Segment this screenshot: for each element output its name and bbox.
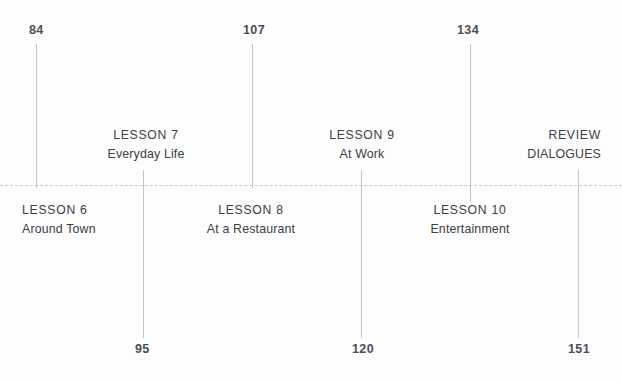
timeline-entry-lesson-7[interactable]: LESSON 7Everyday Life — [107, 126, 184, 164]
timeline-tick-151 — [578, 170, 579, 338]
entry-title-lesson-8: LESSON 8 — [207, 201, 295, 220]
entry-title-lesson-9: LESSON 9 — [329, 126, 395, 145]
page-number-95: 95 — [135, 342, 150, 356]
timeline-tick-134 — [470, 44, 471, 202]
timeline-tick-84 — [36, 44, 37, 188]
timeline-tick-120 — [361, 170, 362, 338]
timeline-entry-review-dialogues[interactable]: REVIEWDIALOGUES — [527, 126, 601, 164]
entry-title-lesson-6: LESSON 6 — [22, 201, 96, 220]
entry-subtitle-lesson-6: Around Town — [22, 220, 96, 239]
entry-title-lesson-7: LESSON 7 — [107, 126, 184, 145]
entry-subtitle-lesson-7: Everyday Life — [107, 145, 184, 164]
timeline-entry-lesson-6[interactable]: LESSON 6Around Town — [22, 201, 96, 239]
entry-subtitle-lesson-9: At Work — [329, 145, 395, 164]
timeline-tick-107 — [252, 44, 253, 188]
page-number-84: 84 — [29, 23, 44, 37]
page-number-107: 107 — [243, 23, 265, 37]
timeline-baseline — [0, 185, 622, 186]
entry-subtitle-review-dialogues: DIALOGUES — [527, 145, 601, 164]
timeline-tick-95 — [143, 170, 144, 338]
page-number-120: 120 — [352, 342, 374, 356]
page-number-151: 151 — [568, 342, 590, 356]
entry-title-review-dialogues: REVIEW — [527, 126, 601, 145]
page-number-134: 134 — [457, 23, 479, 37]
entry-subtitle-lesson-10: Entertainment — [430, 220, 509, 239]
timeline-entry-lesson-8[interactable]: LESSON 8At a Restaurant — [207, 201, 295, 239]
lesson-timeline: 8410713495120151 LESSON 6Around TownLESS… — [0, 0, 622, 382]
timeline-entry-lesson-9[interactable]: LESSON 9At Work — [329, 126, 395, 164]
entry-title-lesson-10: LESSON 10 — [430, 201, 509, 220]
timeline-entry-lesson-10[interactable]: LESSON 10Entertainment — [430, 201, 509, 239]
entry-subtitle-lesson-8: At a Restaurant — [207, 220, 295, 239]
